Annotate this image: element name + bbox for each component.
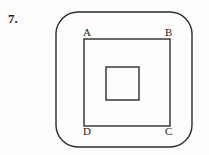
figure-container: 7. A B C D [0,0,209,155]
vertex-label-b: B [165,27,172,38]
geometry-figure [0,0,209,155]
vertex-label-c: C [165,126,172,137]
inner-small-square-shape [106,67,139,100]
vertex-label-d: D [83,126,91,137]
vertex-label-a: A [83,27,91,38]
middle-square-abcd-shape [84,39,170,126]
